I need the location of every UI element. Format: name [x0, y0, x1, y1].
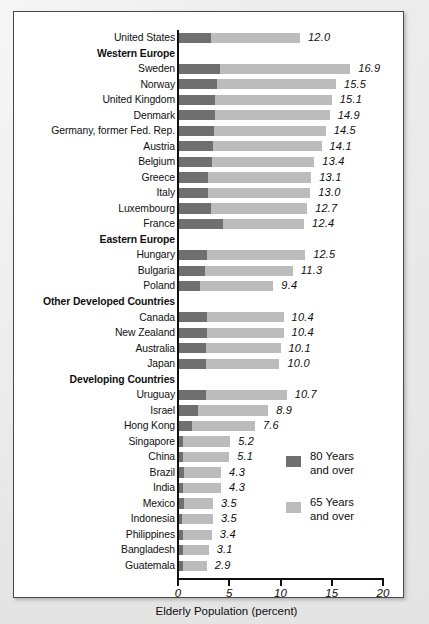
bar-row: Denmark14.9 [14, 108, 403, 124]
bar-segment-65-plus [192, 421, 255, 431]
bar-row-label: India [153, 480, 175, 496]
group-heading-row: Other Developed Countries [14, 294, 403, 310]
bar-segment-65-plus [183, 452, 229, 462]
bar-row: Philippines3.4 [14, 527, 403, 543]
chart-plot-area: United States12.0Western EuropeSweden16.… [14, 12, 403, 597]
bar-segment-80-plus [177, 359, 206, 369]
stacked-bar [177, 79, 336, 89]
bar-row: New Zealand10.4 [14, 325, 403, 341]
chart-panel: United States12.0Western EuropeSweden16.… [13, 11, 404, 598]
legend-label: 65 Yearsand over [310, 496, 354, 523]
bar-row: Greece13.1 [14, 170, 403, 186]
bar-segment-65-plus [206, 359, 280, 369]
bar-row: Poland9.4 [14, 278, 403, 294]
bar-value-label: 2.9 [215, 558, 231, 574]
bar-segment-80-plus [177, 188, 208, 198]
bar-row: Hong Kong7.6 [14, 418, 403, 434]
bar-segment-65-plus [206, 343, 281, 353]
stacked-bar [177, 405, 268, 415]
bar-row: India4.3 [14, 480, 403, 496]
bar-segment-65-plus [220, 64, 350, 74]
bar-row-label: United States [114, 30, 175, 46]
bar-row: Australia10.1 [14, 341, 403, 357]
bar-value-label: 12.5 [313, 247, 335, 263]
group-heading-label: Eastern Europe [100, 232, 175, 248]
bar-value-label: 14.9 [338, 108, 360, 124]
legend-label-line2: and over [310, 510, 354, 524]
stacked-bar [177, 514, 213, 524]
bar-value-label: 10.4 [292, 325, 314, 341]
bar-segment-80-plus [177, 405, 198, 415]
bar-segment-65-plus [183, 483, 221, 493]
bar-segment-65-plus [214, 126, 326, 136]
x-axis-tick [331, 580, 333, 586]
bar-row-label: New Zealand [115, 325, 175, 341]
bar-row-label: Sweden [138, 61, 175, 77]
stacked-bar [177, 188, 310, 198]
x-axis-tick [382, 580, 384, 586]
bar-row: Norway15.5 [14, 77, 403, 93]
bar-row: Singapore5.2 [14, 434, 403, 450]
stacked-bar [177, 452, 229, 462]
stacked-bar [177, 250, 305, 260]
bar-segment-65-plus [207, 328, 284, 338]
bar-value-label: 3.5 [221, 511, 237, 527]
stacked-bar [177, 436, 230, 446]
bar-row: Canada10.4 [14, 310, 403, 326]
bar-value-label: 9.4 [281, 278, 297, 294]
bar-segment-80-plus [177, 172, 208, 182]
bar-segment-65-plus [223, 219, 304, 229]
legend-label-line1: 80 Years [310, 450, 354, 464]
bar-segment-65-plus [198, 405, 269, 415]
bar-row-label: Indonesia [131, 511, 175, 527]
bar-value-label: 3.4 [220, 527, 236, 543]
bar-row: Belgium13.4 [14, 154, 403, 170]
bar-segment-80-plus [177, 64, 220, 74]
bar-segment-65-plus [208, 172, 312, 182]
bar-segment-80-plus [177, 110, 215, 120]
bar-segment-80-plus [177, 95, 215, 105]
bar-segment-65-plus [182, 514, 213, 524]
stacked-bar [177, 126, 326, 136]
bar-segment-80-plus [177, 312, 207, 322]
bar-segment-65-plus [215, 110, 330, 120]
group-heading-row: Eastern Europe [14, 232, 403, 248]
bar-row: Guatemala2.9 [14, 558, 403, 574]
stacked-bar [177, 343, 281, 353]
bar-value-label: 4.3 [229, 465, 245, 481]
stacked-bar [177, 219, 304, 229]
stacked-bar [177, 141, 322, 151]
bar-row: Austria14.1 [14, 139, 403, 155]
stacked-bar [177, 498, 213, 508]
stacked-bar [177, 359, 280, 369]
bar-value-label: 12.4 [312, 216, 334, 232]
x-axis-title: Elderly Population (percent) [32, 605, 421, 617]
bar-row-label: Mexico [143, 496, 175, 512]
y-axis-line [177, 30, 179, 578]
legend-swatch-icon [286, 456, 301, 467]
bar-segment-65-plus [207, 250, 305, 260]
bar-segment-65-plus [213, 141, 322, 151]
bar-row-label: Hungary [136, 247, 175, 263]
bar-value-label: 13.1 [319, 170, 341, 186]
bar-segment-80-plus [177, 250, 207, 260]
legend-label: 80 Yearsand over [310, 450, 354, 477]
bar-row-label: Canada [139, 310, 175, 326]
bar-value-label: 8.9 [276, 403, 292, 419]
stacked-bar [177, 172, 311, 182]
bar-row-label: Austria [143, 139, 175, 155]
bar-value-label: 16.9 [358, 61, 380, 77]
bar-segment-80-plus [177, 343, 206, 353]
bar-row: Sweden16.9 [14, 61, 403, 77]
bar-row: Germany, former Fed. Rep.14.5 [14, 123, 403, 139]
bar-row-label: Norway [140, 77, 175, 93]
bar-row: Hungary12.5 [14, 247, 403, 263]
stacked-bar [177, 561, 207, 571]
bar-value-label: 13.0 [318, 185, 340, 201]
bar-value-label: 10.4 [292, 310, 314, 326]
bar-segment-65-plus [184, 467, 221, 477]
bar-row: France12.4 [14, 216, 403, 232]
bar-row-label: Australia [135, 341, 175, 357]
bar-row-label: Japan [147, 356, 175, 372]
stacked-bar [177, 483, 221, 493]
